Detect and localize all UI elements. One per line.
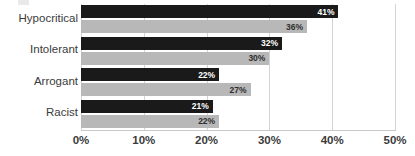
bar-arrogant-dark: 22% <box>81 68 219 81</box>
bar-group-hypocritical: 41%36% <box>81 5 395 37</box>
category-label-hypocritical: Hypocritical <box>2 12 78 24</box>
gridline-50 <box>395 4 396 130</box>
category-label-racist: Racist <box>2 106 78 118</box>
bar-value-label: 22% <box>198 116 219 126</box>
x-axis-ticks: 0%10%20%30%40%50% <box>0 134 415 154</box>
bar-value-label: 22% <box>198 70 219 80</box>
bar-value-label: 30% <box>248 53 269 63</box>
bar-value-label: 21% <box>192 101 213 111</box>
bar-value-label: 32% <box>261 38 282 48</box>
axis-baseline <box>81 130 396 131</box>
x-tick-label: 10% <box>132 134 155 146</box>
x-tick-label: 40% <box>321 134 344 146</box>
bar-group-intolerant: 32%30% <box>81 37 395 69</box>
bar-racist-dark: 21% <box>81 100 213 113</box>
bar-value-label: 36% <box>286 22 307 32</box>
bar-chart: HypocriticalIntolerantArrogantRacist 41%… <box>0 0 415 156</box>
bar-value-label: 27% <box>230 85 251 95</box>
category-label-arrogant: Arrogant <box>2 75 78 87</box>
x-tick-label: 0% <box>73 134 90 146</box>
bar-intolerant-light: 30% <box>81 52 269 65</box>
bar-value-label: 41% <box>317 7 338 17</box>
bar-group-racist: 21%22% <box>81 100 395 132</box>
category-label-intolerant: Intolerant <box>2 43 78 55</box>
category-axis: HypocriticalIntolerantArrogantRacist <box>0 4 78 130</box>
bar-racist-light: 22% <box>81 115 219 128</box>
x-tick-label: 20% <box>195 134 218 146</box>
x-tick-label: 30% <box>258 134 281 146</box>
bar-arrogant-light: 27% <box>81 83 251 96</box>
plot-area: 41%36%32%30%22%27%21%22% <box>81 4 395 130</box>
bar-hypocritical-light: 36% <box>81 20 307 33</box>
bar-intolerant-dark: 32% <box>81 37 282 50</box>
x-tick-label: 50% <box>383 134 406 146</box>
bar-hypocritical-dark: 41% <box>81 5 338 18</box>
bar-group-arrogant: 22%27% <box>81 68 395 100</box>
